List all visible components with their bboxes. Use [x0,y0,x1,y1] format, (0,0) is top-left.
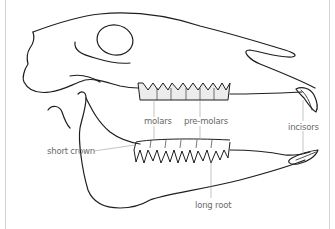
upper-incisor [296,88,317,112]
label-short-crown: short crown [47,146,95,156]
leader-lines [94,100,303,198]
upper-teeth-row [138,83,230,100]
eye-socket [95,22,136,58]
label-incisors: incisors [288,122,319,132]
lower-jaw-inner [48,106,70,128]
upper-jaw-line [230,92,302,94]
upper-skull-outline [33,13,315,88]
label-long-root: long root [195,200,231,210]
ramus-curve [86,98,140,144]
short-crown-leader [94,145,135,151]
lower-jaw-outline [78,92,305,208]
zygomatic-line [70,75,100,82]
label-molars: molars [144,116,172,126]
cheek-ridge [75,42,130,63]
lower-jaw-top [230,150,310,155]
snout-outline [23,32,138,93]
lower-teeth-row [134,139,230,163]
label-pre-molars: pre-molars [184,116,228,126]
horse-skull-drawing [0,0,335,229]
